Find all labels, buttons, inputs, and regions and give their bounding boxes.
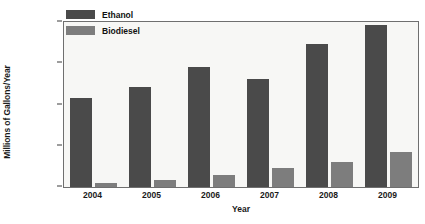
x-axis-title: Year <box>63 204 419 214</box>
legend-label-ethanol: Ethanol <box>102 10 133 20</box>
chart-legend: EthanolBiodiesel <box>66 9 140 36</box>
legend-label-biodiesel: Biodiesel <box>102 26 140 36</box>
bar-ethanol-2009 <box>365 25 387 187</box>
bar-group <box>129 22 176 187</box>
bar-chart-figure: Millions of Gallons/Year 050001000015000… <box>0 0 425 224</box>
legend-item-ethanol: Ethanol <box>66 9 140 20</box>
x-axis-tick-label: 2009 <box>358 190 418 200</box>
bar-biodiesel-2009 <box>390 152 412 187</box>
bar-group <box>365 22 412 187</box>
y-axis-tick-mark <box>57 62 62 63</box>
x-axis-tick-label: 2005 <box>122 190 182 200</box>
bar-biodiesel-2006 <box>213 175 235 187</box>
legend-item-biodiesel: Biodiesel <box>66 25 140 36</box>
x-axis-tick-label: 2004 <box>63 190 123 200</box>
bar-biodiesel-2007 <box>272 168 294 187</box>
y-axis-tick-mark <box>57 103 62 104</box>
bar-biodiesel-2005 <box>154 180 176 187</box>
legend-swatch-ethanol <box>66 10 95 19</box>
bar-ethanol-2004 <box>70 98 92 187</box>
bar-groups <box>64 22 418 187</box>
x-axis-tick-label: 2008 <box>299 190 359 200</box>
y-axis-tick-mark <box>57 144 62 145</box>
bar-ethanol-2007 <box>247 79 269 187</box>
legend-swatch-biodiesel <box>66 26 95 35</box>
bar-group <box>247 22 294 187</box>
x-axis-tick-label: 2007 <box>240 190 300 200</box>
bar-biodiesel-2008 <box>331 162 353 187</box>
x-axis-tick-label: 2006 <box>181 190 241 200</box>
y-axis-tick-mark <box>57 186 62 187</box>
bar-biodiesel-2004 <box>95 183 117 187</box>
bar-ethanol-2005 <box>129 87 151 187</box>
bar-group <box>188 22 235 187</box>
y-axis: 05000100001500020000 <box>0 0 58 224</box>
y-axis-tick-mark <box>57 21 62 22</box>
plot-area <box>63 21 419 188</box>
bar-group <box>70 22 117 187</box>
bar-ethanol-2006 <box>188 67 210 187</box>
bar-group <box>306 22 353 187</box>
bar-ethanol-2008 <box>306 44 328 187</box>
